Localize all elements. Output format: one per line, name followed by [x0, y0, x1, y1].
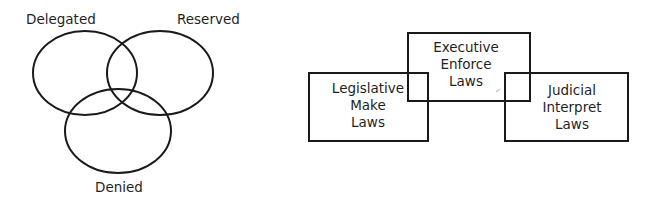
venn-label-denied: Denied [95, 179, 143, 195]
legislative-role: Make [318, 97, 418, 114]
venn-label-reserved: Reserved [177, 11, 240, 27]
executive-title: Executive [416, 39, 516, 56]
venn-label-delegated: Delegated [26, 11, 96, 27]
judicial-object: Laws [522, 116, 622, 133]
executive-text: Executive Enforce Laws [416, 39, 516, 90]
legislative-object: Laws [318, 114, 418, 131]
legislative-title: Legislative [318, 80, 418, 97]
judicial-text: Judicial Interpret Laws [522, 82, 622, 133]
judicial-title: Judicial [522, 82, 622, 99]
venn-circle-reserved [107, 31, 213, 115]
venn-circle-denied [65, 89, 171, 173]
judicial-role: Interpret [522, 99, 622, 116]
legislative-text: Legislative Make Laws [318, 80, 418, 131]
executive-role: Enforce [416, 56, 516, 73]
executive-object: Laws [416, 73, 516, 90]
